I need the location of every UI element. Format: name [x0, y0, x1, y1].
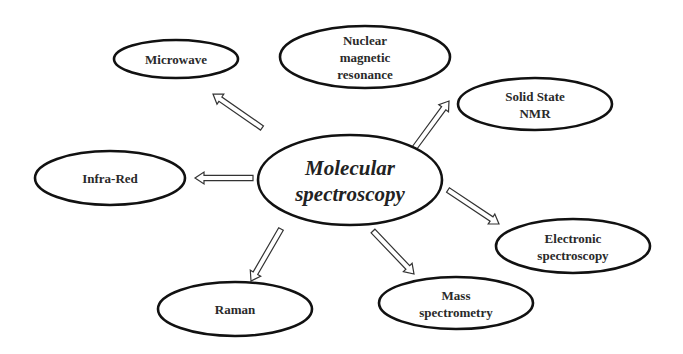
center-node: Molecularspectroscopy: [258, 135, 442, 225]
center-label-line: spectroscopy: [294, 182, 405, 206]
center-label-line: Molecular: [304, 156, 396, 180]
microwave-label-line: Microwave: [145, 52, 207, 67]
electronic-spectroscopy-label-line: Electronic: [545, 231, 602, 246]
mass-spectrometry-ellipse: [379, 277, 533, 329]
spectroscopy-mind-map: MicrowaveNuclearmagneticresonanceSolid S…: [0, 0, 683, 354]
solid-state-nmr-label-line: NMR: [519, 106, 551, 121]
node-solid-state-nmr: Solid StateNMR: [458, 78, 612, 130]
node-nmr: Nuclearmagneticresonance: [280, 26, 450, 88]
infra-red-label: Infra-Red: [82, 171, 138, 186]
arrow-to-raman-icon: [250, 228, 283, 281]
arrow-to-infra-red-icon: [195, 172, 253, 184]
arrow-to-electronic-spectroscopy-icon: [447, 188, 499, 224]
arrow-to-solid-state-nmr-icon: [411, 101, 449, 152]
node-microwave: Microwave: [114, 40, 238, 78]
node-infra-red: Infra-Red: [35, 151, 185, 205]
node-raman: Raman: [158, 282, 312, 336]
nmr-label-line: resonance: [337, 67, 393, 82]
nmr-label-line: magnetic: [340, 50, 391, 65]
solid-state-nmr-ellipse: [458, 78, 612, 130]
mass-spectrometry-label-line: Mass: [442, 288, 471, 303]
nmr-label: Nuclearmagneticresonance: [337, 33, 393, 82]
infra-red-label-line: Infra-Red: [82, 171, 138, 186]
arrow-to-mass-spectrometry-icon: [371, 229, 414, 274]
node-electronic-spectroscopy: Electronicspectroscopy: [496, 219, 650, 273]
node-mass-spectrometry: Massspectrometry: [379, 277, 533, 329]
electronic-spectroscopy-label-line: spectroscopy: [537, 248, 609, 263]
microwave-label: Microwave: [145, 52, 207, 67]
electronic-spectroscopy-ellipse: [496, 219, 650, 273]
raman-label: Raman: [215, 302, 256, 317]
mass-spectrometry-label-line: spectrometry: [419, 305, 493, 320]
solid-state-nmr-label-line: Solid State: [505, 89, 565, 104]
arrow-to-microwave-icon: [213, 94, 264, 130]
nmr-label-line: Nuclear: [343, 33, 387, 48]
raman-label-line: Raman: [215, 302, 256, 317]
